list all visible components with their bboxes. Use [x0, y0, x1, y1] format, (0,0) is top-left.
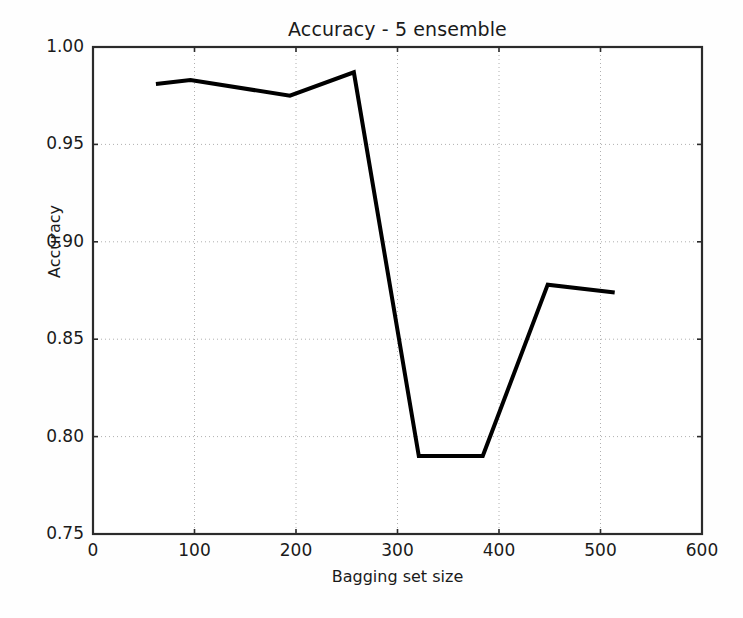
matplotlib-figure: Accuracy - 5 ensemble Bagging set size A…: [0, 0, 743, 618]
x-tick-label: 400: [469, 540, 529, 560]
x-tick-label: 600: [672, 540, 732, 560]
chart-page: Accuracy - 5 ensemble Bagging set size A…: [0, 0, 743, 618]
x-tick-label: 300: [368, 540, 428, 560]
x-tick-label: 0: [63, 540, 123, 560]
x-axis-tick-labels: 0100200300400500600: [0, 0, 743, 618]
x-tick-label: 200: [266, 540, 326, 560]
x-tick-label: 500: [571, 540, 631, 560]
x-tick-label: 100: [165, 540, 225, 560]
